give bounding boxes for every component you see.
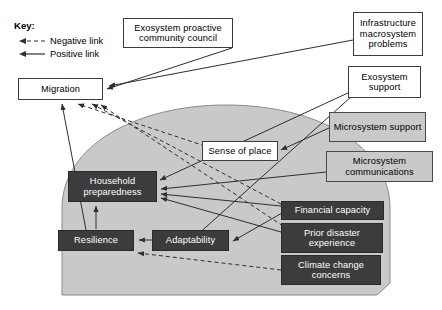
node-label: Exosystem proactive community council: [127, 23, 229, 44]
legend-label-negative: Negative link: [50, 36, 103, 46]
legend-title: Key:: [14, 20, 118, 31]
solid-arrow-icon: [18, 49, 46, 59]
legend-label-positive: Positive link: [50, 49, 99, 59]
node-prior-disaster-experience[interactable]: Prior disaster experience: [281, 223, 383, 253]
node-resilience[interactable]: Resilience: [58, 230, 134, 251]
node-climate-change-concerns[interactable]: Climate change concerns: [281, 255, 381, 285]
node-microsystem-communications[interactable]: Microsystem communications: [326, 151, 433, 182]
node-adaptability[interactable]: Adaptability: [152, 230, 229, 251]
node-label: Sense of place: [209, 146, 272, 156]
legend: Key: Negative link Positive link: [14, 20, 118, 60]
node-label: Household preparedness: [72, 176, 153, 197]
node-label: Exosystem support: [352, 72, 417, 93]
node-financial-capacity[interactable]: Financial capacity: [281, 201, 384, 220]
node-label: Prior disaster experience: [285, 228, 379, 249]
node-household-preparedness[interactable]: Household preparedness: [68, 171, 157, 202]
node-label: Climate change concerns: [285, 260, 377, 281]
node-infrastructure-macrosystem-problems[interactable]: Infrastructure macrosystem problems: [353, 12, 423, 56]
node-exosystem-support[interactable]: Exosystem support: [348, 66, 421, 98]
node-sense-of-place[interactable]: Sense of place: [202, 141, 278, 161]
node-label: Resilience: [74, 235, 118, 245]
node-label: Infrastructure macrosystem problems: [357, 18, 419, 49]
node-migration[interactable]: Migration: [18, 78, 103, 100]
node-label: Migration: [41, 84, 80, 94]
node-label: Adaptability: [166, 235, 215, 245]
node-microsystem-support[interactable]: Microsystem support: [329, 112, 426, 142]
dashed-arrow-icon: [18, 36, 46, 46]
node-exosystem-proactive-community-council[interactable]: Exosystem proactive community council: [123, 18, 233, 48]
legend-item-negative: Negative link: [18, 34, 118, 47]
node-label: Microsystem support: [334, 122, 422, 132]
node-label: Microsystem communications: [330, 156, 429, 177]
legend-item-positive: Positive link: [18, 47, 118, 60]
node-label: Financial capacity: [295, 205, 371, 215]
influence-diagram: Key: Negative link Positive link Exosyst…: [0, 0, 442, 310]
